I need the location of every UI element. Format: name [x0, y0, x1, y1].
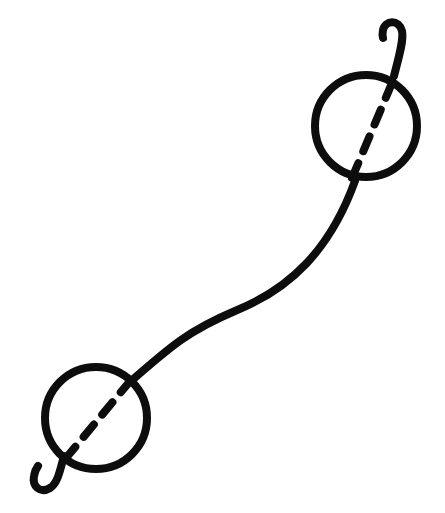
- line-art-illustration: [0, 0, 445, 513]
- drawing-canvas: [0, 0, 445, 513]
